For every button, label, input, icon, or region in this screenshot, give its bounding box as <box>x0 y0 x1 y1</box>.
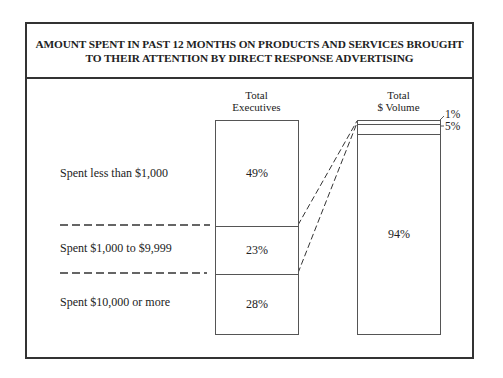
executives-segment-under-1000: 49% <box>216 121 298 227</box>
volume-segment-under-1000: 94% <box>358 134 440 334</box>
volume-bar: 94% <box>357 120 441 335</box>
row-label-under-1000: Spent less than $1,000 <box>60 166 168 181</box>
executives-value-1000-9999: 23% <box>246 243 268 258</box>
row-label-1000-9999: Spent $1,000 to $9,999 <box>60 241 172 256</box>
volume-value-under-1000: 94% <box>388 227 410 242</box>
volume-header-line2: $ Volume <box>357 101 440 113</box>
volume-note-1pct: 1% <box>445 108 460 120</box>
executives-value-10000-plus: 28% <box>246 297 268 312</box>
executives-segment-1000-9999: 23% <box>216 226 298 275</box>
executives-header-line2: Executives <box>215 101 298 113</box>
volume-note-5pct: 5% <box>445 120 460 132</box>
executives-bar: 49% 23% 28% <box>215 120 299 335</box>
executives-segment-10000-plus: 28% <box>216 274 298 334</box>
volume-column-header: Total $ Volume <box>357 89 440 113</box>
row-label-10000-plus: Spent $10,000 or more <box>60 295 170 310</box>
volume-header-line1: Total <box>357 89 440 101</box>
executives-value-under-1000: 49% <box>246 166 268 181</box>
executives-header-line1: Total <box>215 89 298 101</box>
executives-column-header: Total Executives <box>215 89 298 113</box>
